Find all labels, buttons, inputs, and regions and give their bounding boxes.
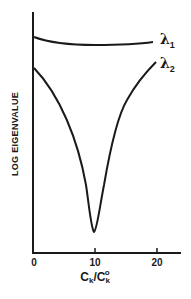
lambda-glyph: λ xyxy=(160,31,170,47)
x-label-base2: C xyxy=(97,270,106,284)
series-lambda2-line xyxy=(34,62,156,232)
series-label-lambda1: λ1 xyxy=(160,31,175,50)
x-tick-label-20: 20 xyxy=(151,257,162,268)
y-axis-label: LOG EIGENVALUE xyxy=(10,92,20,176)
x-axis-label: Ck/Cko xyxy=(80,268,109,285)
series-subscript: 1 xyxy=(170,40,175,50)
series-label-lambda2: λ2 xyxy=(160,55,175,74)
series-subscript: 2 xyxy=(170,64,175,74)
x-tick-label-0: 0 xyxy=(31,257,37,268)
x-tick-label-10: 10 xyxy=(89,257,100,268)
x-label-base1: C xyxy=(80,270,89,284)
x-label-sup2: o xyxy=(105,268,110,277)
series-lambda1-line xyxy=(34,37,153,45)
lambda-glyph: λ xyxy=(160,55,170,71)
x-label-sub2: k xyxy=(105,276,109,285)
